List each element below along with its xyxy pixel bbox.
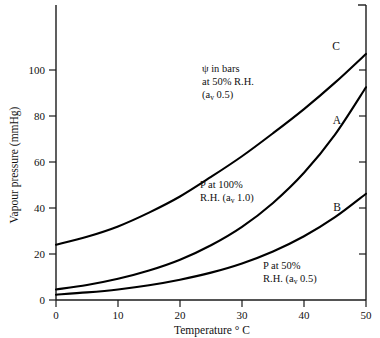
y-tick-label-40: 40 xyxy=(34,202,46,214)
annotation-psi-line2: at 50% R.H. xyxy=(202,76,254,87)
x-tick-label-30: 30 xyxy=(237,309,249,321)
y-tick-label-0: 0 xyxy=(40,294,46,306)
annotation-p100-line2: R.H. (av 1.0) xyxy=(200,192,254,205)
y-axis-title: Vapour pressure (mmHg) xyxy=(8,106,21,223)
data-curves xyxy=(56,54,366,295)
x-tick-labels: 0 10 20 30 40 50 xyxy=(53,309,372,321)
axis-frame xyxy=(56,5,366,300)
y-tick-label-60: 60 xyxy=(34,156,46,168)
y-tick-labels: 0 20 40 60 80 100 xyxy=(29,64,46,306)
curve-label-c: C xyxy=(332,40,340,52)
annotation-psi-line3: (av 0.5) xyxy=(202,89,234,102)
annotation-psi-line3-post: 0.5) xyxy=(214,89,234,101)
annotation-p50-line2-post: 0.5) xyxy=(297,273,317,285)
annotation-psi-line1: ψ in bars xyxy=(202,63,239,74)
annotation-p50-line2: R.H. (av 0.5) xyxy=(263,273,317,286)
x-tick-label-0: 0 xyxy=(53,309,59,321)
y-tick-label-20: 20 xyxy=(34,248,46,260)
annotation-p-50rh: P at 50% R.H. (av 0.5) xyxy=(263,260,317,286)
x-tick-label-20: 20 xyxy=(175,309,187,321)
x-tick-label-50: 50 xyxy=(361,309,373,321)
y-axis-ticks xyxy=(49,70,56,300)
y-tick-label-80: 80 xyxy=(34,110,46,122)
chart-canvas: 0 20 40 60 80 100 0 10 20 30 40 50 Tempe… xyxy=(0,0,380,338)
vapour-pressure-chart: 0 20 40 60 80 100 0 10 20 30 40 50 Tempe… xyxy=(0,0,380,338)
x-axis-title: Temperature ° C xyxy=(174,324,250,337)
annotation-p50-line1: P at 50% xyxy=(263,260,301,271)
annotation-p50-line2-pre: R.H. (a xyxy=(263,273,294,285)
x-axis-ticks xyxy=(56,300,366,307)
annotation-p100-line1: P at 100% xyxy=(200,179,243,190)
annotation-p100-line2-post: 1.0) xyxy=(234,192,254,204)
curve-label-b: B xyxy=(333,201,341,213)
annotation-p100-line2-pre: R.H. (a xyxy=(200,192,231,204)
x-tick-label-40: 40 xyxy=(299,309,311,321)
annotation-psi-50rh: ψ in bars at 50% R.H. (av 0.5) xyxy=(202,63,254,102)
y-tick-label-100: 100 xyxy=(29,64,46,76)
curve-label-a: A xyxy=(333,114,342,126)
x-tick-label-10: 10 xyxy=(113,309,125,321)
annotation-p-100rh: P at 100% R.H. (av 1.0) xyxy=(200,179,254,205)
